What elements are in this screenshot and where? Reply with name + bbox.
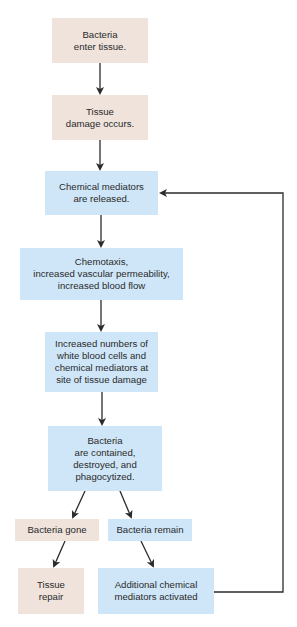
node-bacteria-contained: Bacteria are contained, destroyed, and p… [48, 426, 162, 491]
node-label: Bacteria enter tissue. [74, 29, 126, 53]
node-bacteria-remain: Bacteria remain [108, 519, 192, 541]
node-label: Bacteria remain [116, 524, 183, 536]
node-label: Chemotaxis, increased vascular permeabil… [33, 256, 169, 292]
node-label: Additional chemical mediators activated [114, 579, 197, 603]
arrow-contained-to-gone [73, 491, 85, 517]
node-label: Chemical mediators are released. [59, 181, 144, 205]
node-label: Bacteria gone [27, 524, 86, 536]
node-bacteria-gone: Bacteria gone [15, 519, 99, 541]
node-bacteria-enter: Bacteria enter tissue. [52, 18, 148, 63]
node-mediators-released: Chemical mediators are released. [45, 171, 158, 215]
node-tissue-damage: Tissue damage occurs. [52, 95, 148, 140]
node-label: Tissue repair [37, 579, 65, 603]
arrow-contained-to-remain [120, 491, 131, 517]
node-additional-mediators: Additional chemical mediators activated [98, 568, 214, 614]
inflammation-flowchart: Bacteria enter tissue. Tissue damage occ… [0, 0, 297, 627]
node-label: Tissue damage occurs. [66, 106, 134, 130]
node-increased-wbc: Increased numbers of white blood cells a… [45, 332, 158, 392]
arrow-remain-to-additional [141, 541, 153, 566]
node-tissue-repair: Tissue repair [18, 568, 84, 614]
node-label: Bacteria are contained, destroyed, and p… [73, 435, 136, 483]
node-label: Increased numbers of white blood cells a… [55, 338, 148, 386]
arrow-gone-to-repair [54, 541, 65, 566]
node-chemotaxis: Chemotaxis, increased vascular permeabil… [20, 248, 183, 300]
